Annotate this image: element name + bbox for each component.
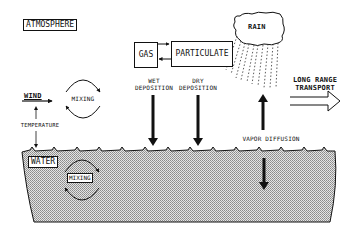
air-mixing-label: MIXING: [70, 95, 96, 102]
water-body: [22, 147, 336, 222]
water-label: WATER: [28, 156, 58, 168]
wet-deposition-line1: WET: [134, 77, 174, 84]
gas-box: GAS: [134, 42, 158, 68]
dry-deposition-label: DRY DEPOSITION: [178, 77, 218, 91]
long-range-transport-arrow: [290, 91, 340, 111]
long-range-transport-label: LONG RANGE TRANSPORT: [284, 76, 346, 92]
long-range-line1: LONG RANGE: [284, 76, 346, 84]
dry-deposition-line2: DEPOSITION: [178, 84, 218, 91]
wet-deposition-label: WET DEPOSITION: [134, 77, 174, 91]
temperature-label: TEMPERATURE: [18, 122, 62, 129]
long-range-line2: TRANSPORT: [284, 84, 346, 92]
water-mixing-label: MIXING: [67, 173, 93, 183]
wind-label: WIND: [24, 93, 42, 100]
diagram-canvas: [0, 0, 355, 237]
dry-deposition-line1: DRY: [178, 77, 218, 84]
wet-deposition-line2: DEPOSITION: [134, 84, 174, 91]
atmosphere-label: ATMOSPHERE: [23, 19, 77, 31]
vapor-diffusion-label: VAPOR DIFFUSION: [241, 135, 301, 142]
rain-label: RAIN: [248, 24, 266, 31]
particulate-box: PARTICULATE: [171, 41, 233, 67]
